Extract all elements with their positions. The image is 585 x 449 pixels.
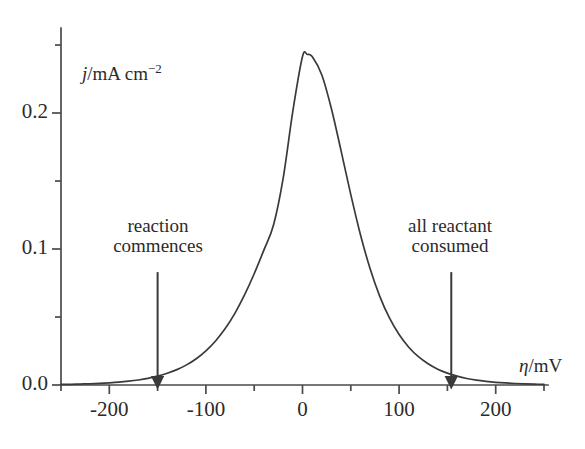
x-tick-label-3: 100 <box>354 398 444 420</box>
x-tick-label-0: -200 <box>64 398 154 420</box>
x-tick-label-1: -100 <box>161 398 251 420</box>
y-axis-title-exponent: −2 <box>148 61 162 76</box>
y-axis-ticks <box>52 45 61 385</box>
annotation-right-line1: all reactant <box>365 216 535 236</box>
x-tick-label-4: 200 <box>451 398 541 420</box>
annotation-right-line2: consumed <box>365 236 535 256</box>
x-axis-title-units: /mV <box>528 355 562 376</box>
y-tick-label-2: 0.2 <box>0 100 48 122</box>
y-tick-label-1: 0.1 <box>0 236 48 258</box>
y-axis-title: j/mA cm−2 <box>82 62 162 84</box>
annotation-all-reactant-consumed: all reactant consumed <box>365 216 535 256</box>
x-tick-label-2: 0 <box>258 398 348 420</box>
x-axis-ticks <box>61 385 544 394</box>
annotation-reaction-commences: reaction commences <box>73 216 243 256</box>
y-axis-title-units: /mA cm <box>87 63 148 84</box>
annotation-left-line2: commences <box>73 236 243 256</box>
figure-container: 0.0 0.1 0.2 -200 -100 0 100 200 j/mA cm−… <box>0 0 585 449</box>
annotation-left-line1: reaction <box>73 216 243 236</box>
x-axis-title: η/mV <box>519 356 562 376</box>
annotation-arrows <box>158 272 452 378</box>
y-tick-label-0: 0.0 <box>0 372 48 394</box>
